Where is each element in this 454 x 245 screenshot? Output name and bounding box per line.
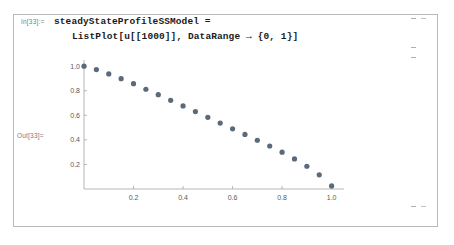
notebook-window: In[33]:= steadyStateProfileSSModel = Lis… — [0, 0, 454, 245]
data-point — [292, 156, 297, 161]
svg-text:0.2: 0.2 — [129, 194, 139, 201]
data-point — [205, 115, 210, 120]
svg-text:1.0: 1.0 — [327, 194, 337, 201]
svg-text:1.0: 1.0 — [70, 63, 80, 70]
data-point — [180, 103, 185, 108]
svg-text:0.6: 0.6 — [228, 194, 238, 201]
data-point — [230, 126, 235, 131]
data-point — [304, 164, 309, 169]
cell-bracket-input[interactable] — [411, 18, 417, 48]
input-code-line-2[interactable]: ListPlot[u[[1000]], DataRange → {0, 1}] — [72, 31, 298, 42]
svg-text:0.2: 0.2 — [70, 161, 80, 168]
input-cell-label: In[33]:= — [21, 18, 44, 25]
data-point — [156, 92, 161, 97]
cell-bracket-group[interactable] — [421, 18, 427, 207]
data-point — [317, 172, 322, 177]
cell-bracket-output[interactable] — [411, 57, 417, 207]
data-point — [131, 81, 136, 86]
svg-text:0.8: 0.8 — [70, 87, 80, 94]
data-point — [94, 67, 99, 72]
svg-text:0.8: 0.8 — [277, 194, 287, 201]
scatter-plot-svg: 0.20.40.60.81.00.20.40.60.81.0 — [62, 56, 352, 211]
svg-text:0.4: 0.4 — [70, 136, 80, 143]
data-point — [193, 109, 198, 114]
data-point — [279, 150, 284, 155]
data-point — [81, 64, 86, 69]
data-point — [143, 87, 148, 92]
input-code-line-1[interactable]: steadyStateProfileSSModel = — [54, 16, 211, 27]
data-point — [106, 71, 111, 76]
data-point — [119, 76, 124, 81]
data-point — [218, 120, 223, 125]
svg-text:0.6: 0.6 — [70, 112, 80, 119]
data-point — [255, 138, 260, 143]
list-plot: 0.20.40.60.81.00.20.40.60.81.0 — [62, 56, 352, 211]
data-point — [242, 132, 247, 137]
data-point — [168, 98, 173, 103]
svg-text:0.4: 0.4 — [178, 194, 188, 201]
data-point — [329, 183, 334, 188]
output-cell-label: Out[33]= — [17, 132, 44, 139]
data-point — [267, 143, 272, 148]
